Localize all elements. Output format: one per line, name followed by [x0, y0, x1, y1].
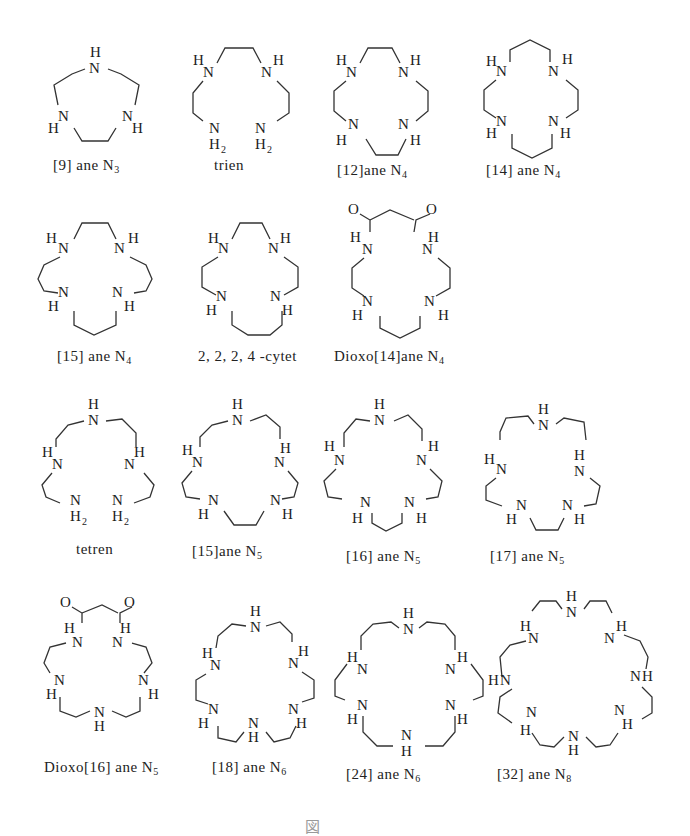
- svg-text:H: H: [410, 132, 421, 148]
- svg-text:H: H: [622, 716, 633, 732]
- structure-trien: HN NH NH2 NH2: [185, 45, 295, 155]
- svg-text:H: H: [134, 444, 145, 460]
- svg-text:H: H: [560, 125, 571, 141]
- svg-text:N: N: [112, 492, 123, 508]
- svg-text:H: H: [94, 718, 105, 734]
- svg-text:H: H: [410, 52, 421, 68]
- compound-label: Dioxo[16] ane N5: [44, 759, 159, 777]
- svg-text:H: H: [120, 620, 131, 636]
- molecule-drawing: HN HN NH NH NH: [480, 400, 610, 535]
- svg-text:H: H: [46, 230, 57, 246]
- svg-text:H: H: [484, 451, 495, 467]
- svg-text:N: N: [203, 64, 214, 80]
- svg-text:N: N: [114, 240, 125, 256]
- svg-text:H: H: [488, 672, 499, 688]
- structure-24aneN6: HN HN NH NH NH NH: [333, 600, 483, 760]
- svg-text:H: H: [282, 506, 293, 522]
- svg-text:N: N: [528, 630, 539, 646]
- structure-15aneN4: HN NH NH NH: [36, 215, 156, 340]
- svg-text:N: N: [209, 120, 220, 136]
- structure-32aneN8: HN HN NH HN NH NH NH NH: [486, 585, 661, 760]
- svg-text:N: N: [255, 120, 266, 136]
- svg-text:H: H: [538, 401, 549, 417]
- svg-text:N: N: [112, 634, 123, 650]
- svg-text:N: N: [216, 288, 227, 304]
- svg-text:H: H: [273, 52, 284, 68]
- svg-text:N: N: [445, 661, 456, 677]
- svg-text:N: N: [261, 64, 272, 80]
- svg-text:2: 2: [267, 144, 272, 155]
- molecule-drawing: HN NH NH NH: [330, 45, 440, 160]
- svg-text:H: H: [198, 715, 209, 731]
- compound-label: Dioxo[14]ane N4: [334, 348, 444, 366]
- svg-text:H: H: [506, 511, 517, 527]
- svg-text:H: H: [298, 643, 309, 659]
- svg-text:N: N: [208, 701, 219, 717]
- svg-text:H: H: [520, 722, 531, 738]
- svg-text:H: H: [112, 508, 123, 524]
- svg-text:H: H: [128, 230, 139, 246]
- svg-text:N: N: [496, 113, 507, 129]
- svg-text:H: H: [568, 742, 579, 758]
- structure-9aneN3: HN NH NH: [40, 45, 150, 155]
- svg-text:H: H: [250, 603, 261, 619]
- structure-12aneN4: HN NH NH NH: [330, 45, 440, 160]
- svg-text:N: N: [374, 412, 385, 428]
- svg-text:N: N: [89, 60, 100, 76]
- svg-text:N: N: [362, 241, 373, 257]
- svg-text:H: H: [566, 588, 577, 604]
- svg-text:H: H: [347, 711, 358, 727]
- svg-text:N: N: [270, 492, 281, 508]
- svg-text:H: H: [46, 686, 57, 702]
- svg-text:N: N: [208, 492, 219, 508]
- svg-text:H: H: [90, 44, 101, 60]
- svg-text:N: N: [398, 116, 409, 132]
- svg-text:N: N: [362, 293, 373, 309]
- svg-text:N: N: [548, 113, 559, 129]
- svg-text:N: N: [210, 657, 221, 673]
- svg-text:N: N: [424, 293, 435, 309]
- svg-text:H: H: [280, 230, 291, 246]
- structure-15aneN5: HN HN NH NH NH: [178, 397, 303, 532]
- svg-text:H: H: [562, 51, 573, 67]
- svg-text:H: H: [486, 125, 497, 141]
- svg-text:2: 2: [82, 516, 87, 527]
- compound-label: [15] ane N4: [57, 348, 132, 366]
- svg-text:H: H: [350, 229, 361, 245]
- molecule-drawing: OO HN NH NH NH: [340, 200, 465, 340]
- svg-text:H: H: [642, 668, 653, 684]
- svg-text:H: H: [428, 229, 439, 245]
- svg-text:N: N: [562, 497, 573, 513]
- molecule-drawing: HN HN NH HN NH NH NH NH: [486, 585, 661, 760]
- svg-text:N: N: [630, 668, 641, 684]
- svg-text:N: N: [274, 454, 285, 470]
- svg-text:H: H: [206, 302, 217, 318]
- figure-caption: 図: [305, 815, 320, 836]
- molecule-drawing: HN NH NH NH: [36, 215, 156, 340]
- svg-text:N: N: [250, 619, 261, 635]
- svg-text:O: O: [60, 594, 71, 610]
- svg-text:N: N: [538, 417, 549, 433]
- svg-text:H: H: [209, 136, 220, 152]
- molecule-drawing: HN HN NH NH2 NH2: [38, 397, 163, 527]
- molecule-drawing: HN NH NH2 NH2: [185, 45, 295, 155]
- compound-label: trien: [214, 157, 244, 174]
- structure-dioxo16aneN5: OO HN NH NH NH NH: [40, 593, 165, 733]
- structure-16aneN5: HN HN NH NH NH: [320, 397, 450, 532]
- svg-text:H: H: [428, 438, 439, 454]
- svg-text:N: N: [445, 697, 456, 713]
- svg-text:H: H: [255, 136, 266, 152]
- svg-text:H: H: [88, 396, 99, 412]
- svg-text:N: N: [72, 634, 83, 650]
- svg-text:H: H: [457, 649, 468, 665]
- svg-text:N: N: [403, 621, 414, 637]
- compound-label: [14] ane N4: [486, 162, 561, 180]
- svg-text:N: N: [398, 64, 409, 80]
- svg-text:N: N: [357, 661, 368, 677]
- structure-17aneN5: HN HN NH NH NH: [480, 400, 610, 535]
- svg-text:N: N: [218, 240, 229, 256]
- svg-text:H: H: [401, 743, 412, 759]
- svg-text:N: N: [70, 492, 81, 508]
- svg-text:H: H: [336, 132, 347, 148]
- svg-text:2: 2: [124, 516, 129, 527]
